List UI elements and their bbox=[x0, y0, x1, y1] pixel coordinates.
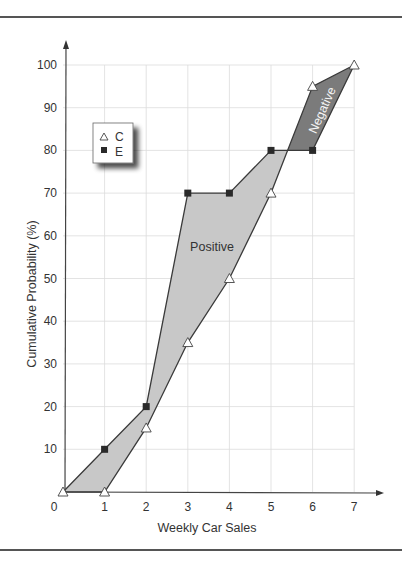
legend-label-c: C bbox=[115, 130, 124, 144]
series-e-square-icon bbox=[101, 446, 108, 453]
y-tick-label: 90 bbox=[44, 101, 58, 115]
series-e-square-icon bbox=[184, 190, 191, 197]
x-tick-label: 3 bbox=[184, 500, 191, 514]
y-axis bbox=[65, 46, 66, 492]
legend-box bbox=[93, 123, 133, 163]
y-tick-label: 70 bbox=[44, 186, 58, 200]
x-axis-title: Weekly Car Sales bbox=[157, 521, 256, 535]
series-e-square-icon bbox=[309, 147, 316, 154]
y-tick-label: 30 bbox=[44, 357, 58, 371]
y-tick-label: 60 bbox=[44, 229, 58, 243]
y-tick-label: 40 bbox=[44, 314, 58, 328]
y-tick-label: 100 bbox=[37, 58, 57, 72]
series-e-square-icon bbox=[143, 403, 150, 410]
x-tick-label: 7 bbox=[351, 500, 358, 514]
series-c-triangle-icon bbox=[349, 60, 359, 69]
y-tick-label: 50 bbox=[44, 272, 58, 286]
x-axis-arrow-icon bbox=[376, 490, 384, 496]
y-axis-title: Cumulative Probability (%) bbox=[25, 220, 39, 367]
y-axis-arrow-icon bbox=[63, 40, 69, 49]
x-tick-label: 5 bbox=[268, 500, 275, 514]
y-tick-label: 80 bbox=[44, 143, 58, 157]
legend-square-icon bbox=[101, 147, 107, 153]
positive-region-label: Positive bbox=[190, 240, 234, 254]
x-tick-label: 4 bbox=[226, 500, 233, 514]
x-tick-label: 6 bbox=[309, 500, 316, 514]
cumulative-probability-chart: 01234567102030405060708090100 Positive N… bbox=[0, 0, 402, 562]
x-tick-label: 0 bbox=[51, 500, 58, 514]
x-tick-label: 2 bbox=[143, 500, 150, 514]
series-e-square-icon bbox=[268, 147, 275, 154]
series-e-square-icon bbox=[226, 190, 233, 197]
y-tick-label: 20 bbox=[44, 400, 58, 414]
x-axis bbox=[63, 492, 378, 493]
y-tick-label: 10 bbox=[44, 442, 58, 456]
legend-label-e: E bbox=[115, 145, 123, 159]
x-tick-label: 1 bbox=[101, 500, 108, 514]
legend: C E bbox=[93, 123, 133, 163]
